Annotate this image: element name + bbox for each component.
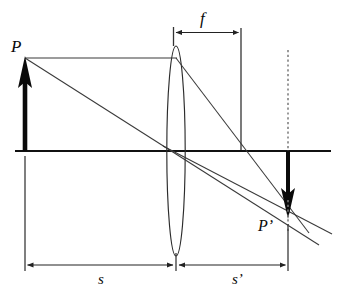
diagram-canvas bbox=[0, 0, 341, 301]
baseline-dimensions bbox=[25, 156, 288, 271]
object-point-label: P bbox=[11, 38, 21, 55]
lower-marginal-ray bbox=[163, 146, 332, 234]
object-arrow bbox=[18, 56, 32, 151]
image-point-label: P’ bbox=[258, 218, 273, 234]
focal-length-label: f bbox=[200, 10, 205, 27]
image-distance-label: s’ bbox=[232, 272, 243, 287]
object-distance-label: s bbox=[98, 272, 104, 287]
ray-diagram-figure: P P’ f s s’ bbox=[0, 0, 341, 301]
